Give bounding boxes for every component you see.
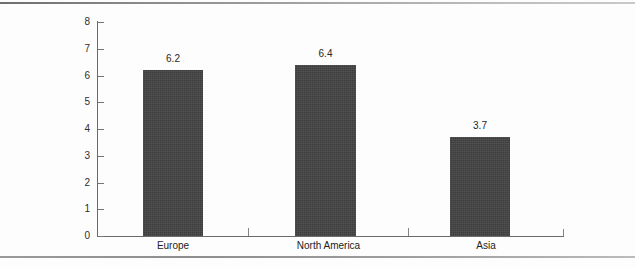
y-axis-label-text: 4	[74, 124, 90, 134]
y-axis-label-text: 8	[74, 17, 90, 27]
bar-north-america[interactable]	[295, 65, 356, 236]
y-axis-tick-7	[98, 49, 104, 50]
y-axis-tick-5	[98, 102, 104, 103]
x-axis-category-label-north-america: North America	[249, 240, 408, 252]
bar-value-label-europe: 6.2	[143, 53, 203, 64]
x-axis-divider-1	[248, 228, 249, 236]
bar-asia[interactable]	[450, 137, 510, 236]
y-axis-label-text: 2	[74, 178, 90, 188]
y-axis-label-text: 6	[74, 71, 90, 81]
y-axis-tick-3	[98, 156, 104, 157]
y-axis-label-1: 1	[72, 204, 90, 214]
x-axis-line	[97, 236, 564, 237]
y-axis-label-text: 3	[74, 151, 90, 161]
y-axis-label-5: 5	[72, 97, 90, 107]
y-axis-label-text: 5	[74, 97, 90, 107]
y-axis-label-text: 1	[74, 204, 90, 214]
y-axis-label-3: 3	[72, 151, 90, 161]
bar-value-label-asia: 3.7	[450, 120, 510, 131]
y-axis-label-6: 6	[72, 71, 90, 81]
y-axis-label-2: 2	[72, 178, 90, 188]
bar-europe[interactable]	[143, 70, 203, 236]
y-axis-label-text: 7	[74, 44, 90, 54]
y-axis-label-text: 0	[74, 231, 90, 241]
x-axis-divider-2	[408, 228, 409, 236]
y-axis-tick-4	[98, 129, 104, 130]
bar-chart-plot-area: 876543210 6.2Europe6.4North America3.7As…	[0, 0, 635, 267]
bar-value-label-north-america: 6.4	[295, 48, 356, 59]
y-axis-label-8: 8	[72, 17, 90, 27]
y-axis-tick-1	[98, 209, 104, 210]
y-axis-tick-6	[98, 76, 104, 77]
chart-page: 876543210 6.2Europe6.4North America3.7As…	[0, 0, 635, 267]
x-axis-category-label-asia: Asia	[409, 240, 563, 252]
y-axis-tick-8	[98, 22, 104, 23]
x-axis-end-tick	[563, 229, 564, 236]
y-axis-label-0: 0	[72, 231, 90, 241]
y-axis-tick-0	[98, 236, 104, 237]
x-axis-category-label-europe: Europe	[98, 240, 248, 252]
y-axis-tick-2	[98, 183, 104, 184]
y-axis-label-4: 4	[72, 124, 90, 134]
y-axis-label-7: 7	[72, 44, 90, 54]
